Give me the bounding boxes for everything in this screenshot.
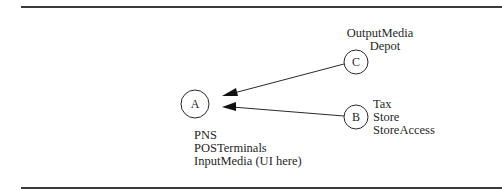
node-a-labels: PNS POSTerminals InputMedia (UI here) [194,129,302,168]
arrowhead-b-to-a [222,102,236,111]
node-b-letter: B [346,111,366,123]
edge-c-to-a [230,64,344,94]
arrowhead-c-to-a [222,88,238,96]
node-c-label-depot: Depot [340,40,420,53]
node-b-labels: Tax Store StoreAccess [373,98,435,137]
node-c-labels: OutputMedia Depot [340,27,420,53]
edge-b-to-a [232,107,344,116]
node-c-letter: C [346,56,366,68]
node-a-letter: A [185,98,205,110]
node-a-label-inputmedia: InputMedia (UI here) [194,155,302,168]
node-b-label-storeaccess: StoreAccess [373,124,435,137]
